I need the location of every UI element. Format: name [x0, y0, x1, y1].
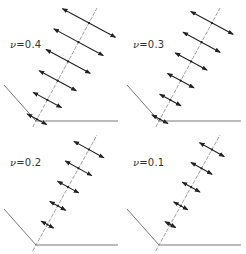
- panel-nu-0-1: ν=0.1: [123, 127, 246, 254]
- inclined-boundary-line: [127, 209, 159, 245]
- arrow-diagram-nu-0-2: [0, 127, 123, 254]
- axis-point: [211, 149, 213, 151]
- axis-point: [57, 80, 59, 82]
- axis-point: [57, 205, 59, 207]
- arrow-diagram-nu-0-1: [123, 127, 246, 254]
- dashed-axis-line: [156, 135, 220, 251]
- panel-nu-0-4: ν=0.4: [0, 0, 123, 127]
- axis-point: [200, 167, 202, 169]
- axis-point: [169, 223, 171, 225]
- axis-point: [36, 118, 38, 120]
- panel-nu-0-2: ν=0.2: [0, 127, 123, 254]
- axis-point: [180, 205, 182, 207]
- axis-point: [190, 186, 192, 188]
- axis-point: [88, 22, 90, 24]
- axis-point: [77, 167, 79, 169]
- axis-point: [77, 41, 79, 43]
- axis-point: [169, 99, 171, 101]
- arrow-diagram-nu-0-3: [123, 0, 246, 127]
- dashed-axis-line: [33, 135, 97, 251]
- nu-label: ν=0.1: [133, 157, 164, 168]
- nu-value: =0.3: [139, 39, 164, 50]
- axis-point: [46, 223, 48, 225]
- axis-point: [180, 80, 182, 82]
- arrow-diagram-nu-0-4: [0, 0, 123, 127]
- axis-point: [190, 60, 192, 62]
- axis-point: [211, 22, 213, 24]
- nu-label: ν=0.2: [10, 157, 41, 168]
- axis-point: [88, 149, 90, 151]
- panel-nu-0-3: ν=0.3: [123, 0, 246, 127]
- nu-label: ν=0.4: [10, 39, 41, 50]
- nu-value: =0.4: [16, 39, 41, 50]
- axis-point: [46, 99, 48, 101]
- axis-point: [159, 118, 161, 120]
- nu-value: =0.1: [139, 157, 164, 168]
- nu-label: ν=0.3: [133, 39, 164, 50]
- inclined-boundary-line: [4, 209, 36, 245]
- dashed-axis-line: [33, 8, 97, 127]
- nu-value: =0.2: [16, 157, 41, 168]
- axis-point: [67, 60, 69, 62]
- axis-point: [67, 186, 69, 188]
- axis-point: [200, 41, 202, 43]
- dashed-axis-line: [156, 8, 220, 127]
